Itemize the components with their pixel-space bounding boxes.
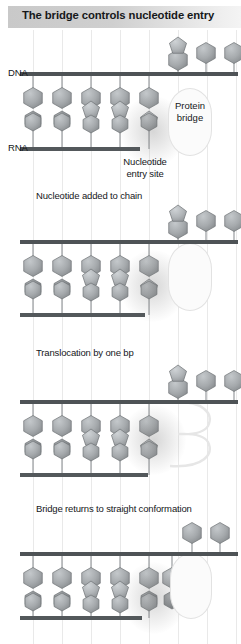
- template-base-1: [24, 568, 43, 589]
- incoming-nucleotide-sugar: [169, 205, 186, 221]
- protein-bridge-4: [170, 553, 212, 619]
- free-nucleotide-2: [211, 523, 230, 544]
- rna-base-3: [83, 115, 99, 133]
- rna-label-1: RNA: [8, 142, 28, 153]
- protein-bridge-3-bent: [164, 396, 220, 472]
- incoming-nucleotide-sugar: [169, 365, 186, 381]
- panel-caption-2: Nucleotide added to chain: [36, 190, 142, 201]
- rna-strand-2: [20, 313, 145, 317]
- dna-strand-3: [20, 400, 238, 404]
- entry-label-line2: entry site: [108, 168, 182, 180]
- rna-strand-3: [20, 473, 148, 477]
- template-base-2: [53, 88, 72, 109]
- template-base-2: [53, 256, 72, 277]
- protein-bridge-label-line2: bridge: [168, 112, 212, 124]
- entry-label-line1: Nucleotide: [108, 156, 182, 168]
- dna-strand-1: [20, 72, 238, 76]
- dna-label-1: DNA: [8, 67, 28, 78]
- template-base-2: [53, 568, 72, 589]
- free-nucleotide-1: [197, 211, 216, 232]
- free-nucleotide-1: [197, 371, 216, 392]
- panel-caption-4: Bridge returns to straight conformation: [36, 503, 192, 514]
- rna-base-3: [83, 595, 99, 613]
- nucleotide-entry-site-label: Nucleotide entry site: [108, 156, 182, 180]
- rna-strand-1: [20, 147, 140, 151]
- template-base-1: [24, 256, 43, 277]
- free-nucleotide-2: [225, 371, 241, 392]
- dna-strand-4: [20, 552, 238, 556]
- incoming-nucleotide-sugar: [169, 37, 186, 53]
- free-nucleotide-1: [197, 43, 216, 64]
- template-base-1: [24, 88, 43, 109]
- rna-base-3: [83, 283, 99, 301]
- free-nucleotide-2: [225, 211, 241, 232]
- free-nucleotide-1: [183, 523, 202, 544]
- free-nucleotide-2: [225, 43, 241, 64]
- rna-strand-4: [20, 616, 142, 620]
- dna-strand-2: [20, 240, 238, 244]
- template-base-2: [53, 416, 72, 437]
- protein-bridge-label: Protein bridge: [168, 100, 212, 124]
- panel-caption-3: Translocation by one bp: [36, 347, 134, 358]
- figure-canvas: The bridge controls nucleotide entry Pro…: [0, 0, 241, 644]
- protein-bridge-2: [168, 243, 212, 311]
- rna-base-3: [83, 443, 99, 461]
- template-base-1: [24, 416, 43, 437]
- protein-bridge-label-line1: Protein: [168, 100, 212, 112]
